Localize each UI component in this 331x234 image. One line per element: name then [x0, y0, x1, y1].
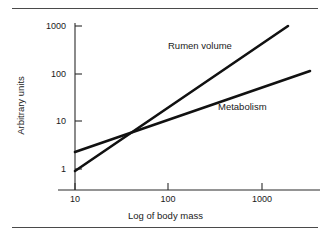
- y-tick-label-10: 10: [30, 117, 66, 126]
- y-axis-title: Arbitrary units: [15, 56, 26, 156]
- series-label-rumen-volume: Rumen volume: [168, 40, 232, 51]
- series-line-metabolism: [75, 71, 310, 152]
- x-tick-label-100: 100: [148, 195, 188, 204]
- figure-container: 1000 100 10 1 10 100 1000 Log of body ma…: [0, 0, 331, 234]
- y-tick-label-1: 1: [30, 165, 66, 174]
- y-tick-label-1000: 1000: [30, 22, 66, 31]
- x-tick-label-10: 10: [55, 195, 95, 204]
- series-label-metabolism: Metabolism: [218, 101, 267, 112]
- x-tick-label-1000: 1000: [242, 195, 282, 204]
- x-axis-title: Log of body mass: [0, 210, 331, 221]
- y-tick-label-100: 100: [30, 70, 66, 79]
